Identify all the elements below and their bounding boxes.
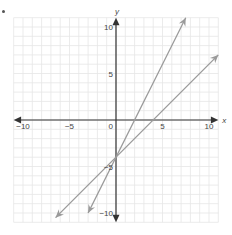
- y-tick-label: 5: [109, 70, 114, 79]
- y-tick-label: 10: [104, 23, 113, 32]
- y-tick-label: −5: [104, 163, 114, 172]
- y-axis-down-arrow-icon: [113, 215, 120, 222]
- x-tick-label: 10: [205, 122, 214, 131]
- x-tick-label: 5: [160, 122, 165, 131]
- y-axis-label: y: [114, 7, 120, 16]
- axes: [14, 18, 219, 223]
- plotted-lines: [56, 18, 219, 218]
- line-steep: [88, 18, 186, 213]
- x-axis-label: x: [221, 116, 227, 125]
- line-shallow: [56, 55, 219, 218]
- y-tick-label: −10: [99, 209, 113, 218]
- tick-labels: −10−50510105−5−10xy: [16, 7, 227, 218]
- x-tick-label: −10: [16, 122, 30, 131]
- x-tick-label: −5: [65, 122, 75, 131]
- coordinate-plane: −10−50510105−5−10xy: [0, 0, 232, 235]
- origin-label: 0: [109, 122, 114, 131]
- y-axis-up-arrow-icon: [113, 18, 120, 25]
